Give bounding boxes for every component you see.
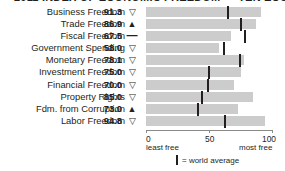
x-axis-tick-50: [209, 130, 210, 133]
trend-flat-icon: —: [126, 30, 138, 42]
bar-fill: [146, 104, 238, 114]
table-row: Fdm. from Corruption 73.0 ▲: [0, 103, 285, 115]
bar-track: [146, 55, 272, 65]
world-average-marker: [201, 91, 203, 104]
trend-down-icon: ▽: [126, 54, 138, 66]
trend-down-icon: ▽: [126, 115, 138, 127]
bar-track: [146, 31, 272, 41]
world-average-marker: [227, 6, 229, 19]
indicator-score: 67.5: [101, 30, 122, 42]
bar-fill: [146, 43, 219, 53]
bar-fill: [146, 19, 256, 29]
trend-down-icon: ▽: [126, 42, 138, 54]
world-average-marker: [197, 103, 199, 116]
table-row: Investment Freedom 75.0 ▽: [0, 66, 285, 78]
world-average-swatch-icon: [176, 155, 178, 165]
indicator-score: 78.1: [101, 54, 122, 66]
bar-track: [146, 92, 272, 102]
bar-fill: [146, 7, 261, 17]
world-average-marker: [208, 66, 210, 79]
x-axis-tick-0: [146, 130, 147, 133]
world-average-marker: [207, 79, 209, 92]
x-axis-tick-100: [272, 130, 273, 133]
world-average-marker: [223, 42, 225, 55]
indicator-score: 91.3: [101, 6, 122, 18]
trend-down-icon: ▽: [126, 66, 138, 78]
axis-note-most-free: most free: [239, 143, 272, 152]
indicator-score: 70.0: [101, 79, 122, 91]
table-row: Trade Freedom 86.9 ▲: [0, 18, 285, 30]
bar-track: [146, 7, 272, 17]
trend-down-icon: ▽: [126, 6, 138, 18]
indicator-rows: Business Freedom 91.3 ▽ Trade Freedom 86…: [0, 6, 285, 127]
trend-down-icon: ▽: [126, 79, 138, 91]
axis-note-least-free: least free: [146, 143, 179, 152]
indicator-score: 58.0: [101, 42, 122, 54]
bar-track: [146, 104, 272, 114]
world-average-marker: [239, 54, 241, 67]
indicator-score: 86.9: [101, 18, 122, 30]
table-row: Monetary Freedom 78.1 ▽: [0, 54, 285, 66]
indicator-score: 94.8: [101, 115, 122, 127]
bar-fill: [146, 116, 265, 126]
bar-track: [146, 19, 272, 29]
table-row: Property Rights 85.0 ▽: [0, 91, 285, 103]
legend: = world average: [176, 154, 239, 166]
bar-fill: [146, 92, 253, 102]
world-average-marker: [224, 115, 226, 128]
page-title: 2011 INDEX OF ECONOMIC FREEDOM — TEN ECO…: [14, 0, 285, 3]
indicator-score: 85.0: [101, 91, 122, 103]
table-row: Fiscal Freedom 67.5 —: [0, 30, 285, 42]
bar-track: [146, 43, 272, 53]
world-average-marker: [244, 30, 246, 43]
bar-fill: [146, 80, 234, 90]
world-average-marker: [240, 18, 242, 31]
bar-fill: [146, 31, 231, 41]
indicator-score: 73.0: [101, 103, 122, 115]
bar-fill: [146, 55, 244, 65]
table-row: Labor Freedom 94.8 ▽: [0, 115, 285, 127]
bar-fill: [146, 67, 241, 77]
chart-title-strip: 2011 INDEX OF ECONOMIC FREEDOM — TEN ECO…: [0, 0, 285, 5]
x-axis-label-50: 50: [205, 134, 214, 144]
bar-track: [146, 67, 272, 77]
table-row: Government Spending 58.0 ▽: [0, 42, 285, 54]
table-row: Business Freedom 91.3 ▽: [0, 6, 285, 18]
legend-label: = world average: [182, 156, 239, 165]
indicator-score: 75.0: [101, 66, 122, 78]
bar-track: [146, 80, 272, 90]
table-row: Financial Freedom 70.0 ▽: [0, 79, 285, 91]
trend-up-icon: ▲: [126, 103, 138, 115]
trend-down-icon: ▽: [126, 91, 138, 103]
economic-freedom-chart: 2011 INDEX OF ECONOMIC FREEDOM — TEN ECO…: [0, 0, 285, 171]
bar-track: [146, 116, 272, 126]
